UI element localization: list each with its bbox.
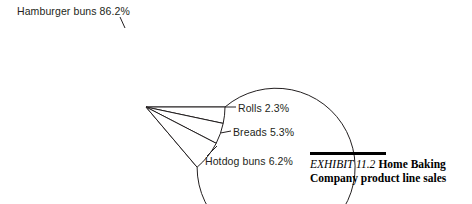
exhibit-caption: EXHIBIT 11.2Home Baking Company product … [310,152,468,185]
caption-rule [310,152,386,155]
caption-exhibit-number: EXHIBIT 11.2 [310,158,375,170]
pie-label-hotdog-buns: Hotdog buns 6.2% [205,155,293,167]
caption-text: EXHIBIT 11.2Home Baking Company product … [310,158,468,185]
figure-root: Hamburger buns 86.2% Rolls 2.3% Breads 5… [0,0,472,204]
pie-label-hamburger-buns: Hamburger buns 86.2% [17,5,130,17]
leader-line-hamburger-buns [120,17,125,28]
pie-label-breads: Breads 5.3% [233,126,294,138]
pie-label-rolls: Rolls 2.3% [238,102,289,114]
